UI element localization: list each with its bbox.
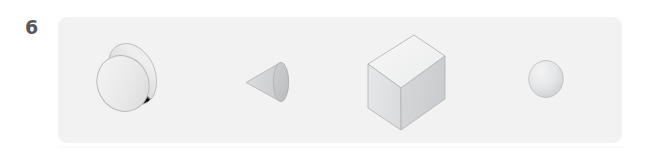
shape-row-panel (58, 17, 622, 143)
panel-baseline (58, 146, 624, 148)
shape-cone (244, 60, 298, 106)
sphere-surface (529, 61, 563, 98)
question-number: 6 (25, 15, 47, 39)
shape-cube (365, 33, 449, 133)
shape-cylinder (88, 38, 168, 122)
worksheet-figure: 6 (0, 0, 648, 156)
shape-sphere (527, 59, 567, 101)
cone-base-face (273, 62, 288, 101)
